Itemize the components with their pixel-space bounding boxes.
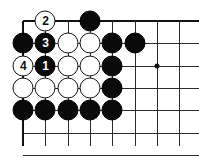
black-stone-e3 [102, 55, 123, 76]
black-stone-1: 1 [35, 55, 56, 76]
white-stone-c2 [57, 33, 78, 54]
white-stone-d2 [79, 33, 100, 54]
stone-number-label: 1 [42, 59, 48, 71]
white-stone-c4 [57, 77, 78, 98]
stone-number-label: 4 [20, 59, 26, 71]
black-stone-3: 3 [35, 33, 56, 54]
black-stone-b5 [35, 100, 56, 121]
stone-number-label: 3 [42, 37, 48, 49]
stone-number-label: 2 [42, 15, 48, 27]
go-board-diagram: 2341 [0, 0, 199, 160]
grid-line-vertical-7 [157, 21, 158, 146]
white-stone-d4 [79, 77, 100, 98]
grid-line-horizontal-6 [23, 133, 199, 134]
black-stone-f2 [124, 33, 145, 54]
white-stone-4: 4 [13, 55, 34, 76]
black-stone-a5 [13, 100, 34, 121]
white-stone-d3 [79, 55, 100, 76]
black-stone-c5 [57, 100, 78, 121]
black-stone-a2 [13, 33, 34, 54]
grid-line-vertical-8 [179, 21, 180, 146]
black-stone-e2 [102, 33, 123, 54]
white-stone-a4 [13, 77, 34, 98]
white-stone-b4 [35, 77, 56, 98]
black-stone-d1 [79, 11, 100, 32]
white-stone-2: 2 [35, 11, 56, 32]
black-stone-e4 [102, 77, 123, 98]
grid-line-horizontal-7 [23, 155, 199, 156]
white-stone-c3 [57, 55, 78, 76]
black-stone-e5 [102, 100, 123, 121]
star-point-1 [154, 63, 159, 68]
black-stone-d5 [79, 100, 100, 121]
